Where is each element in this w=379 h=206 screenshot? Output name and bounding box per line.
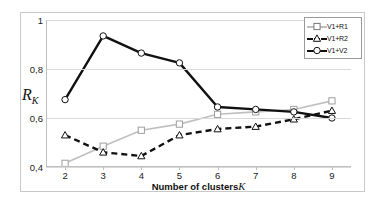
legend-marker-square-icon: [307, 21, 327, 32]
chart-figure: 0,40,60,81 RK 23456789 Number of cluster…: [0, 0, 379, 206]
x-tick-mark: [294, 166, 295, 170]
data-point-marker: [313, 34, 320, 40]
x-tick-label: 9: [329, 170, 334, 181]
y-tick-label: 1: [38, 15, 43, 26]
y-tick-label: 0,4: [30, 162, 43, 173]
x-tick-label: 2: [62, 170, 67, 181]
legend-label: V1+V2: [327, 47, 347, 54]
x-tick-mark: [332, 166, 333, 170]
legend-label: V1+R2: [327, 35, 348, 42]
legend-swatch: [307, 45, 327, 56]
y-tick-label: 0,6: [30, 113, 43, 124]
x-tick-mark: [256, 166, 257, 170]
x-tick-label: 4: [139, 170, 144, 181]
x-tick-label: 7: [253, 170, 258, 181]
x-tick-mark: [141, 166, 142, 170]
legend-marker-triangle-icon: [307, 33, 327, 44]
data-point-marker: [314, 23, 320, 29]
y-axis-label: RK: [22, 86, 38, 106]
legend-item-V1+R2[interactable]: V1+R2: [307, 32, 359, 44]
x-tick-mark: [103, 166, 104, 170]
y-axis-label-main: R: [22, 86, 32, 103]
x-tick-label: 5: [177, 170, 182, 181]
legend-item-V1+V2[interactable]: V1+V2: [307, 44, 359, 56]
x-axis-label-main: Number of clusters: [152, 181, 239, 192]
x-tick-mark: [65, 166, 66, 170]
legend-item-V1+R1[interactable]: V1+R1: [307, 20, 359, 32]
x-axis-label: Number of clustersK: [46, 181, 351, 192]
x-tick-label: 8: [291, 170, 296, 181]
data-point-marker: [314, 47, 320, 53]
legend-marker-circle-icon: [307, 45, 327, 56]
legend-swatch: [307, 21, 327, 32]
y-axis-label-sub: K: [32, 95, 39, 106]
x-axis-label-symbol: K: [238, 181, 245, 192]
x-tick-mark: [218, 166, 219, 170]
x-tick-mark: [179, 166, 180, 170]
legend-swatch: [307, 33, 327, 44]
y-tick-label: 0,8: [30, 64, 43, 75]
legend-label: V1+R1: [327, 23, 348, 30]
x-tick-label: 6: [215, 170, 220, 181]
legend[interactable]: V1+R1V1+R2V1+V2: [304, 17, 362, 59]
gridline: [46, 167, 351, 168]
x-tick-label: 3: [101, 170, 106, 181]
